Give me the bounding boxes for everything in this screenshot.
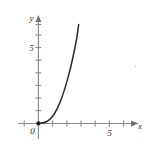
graph-figure: y x 5 5 0: [0, 0, 150, 152]
origin-point: [36, 121, 40, 125]
origin-label: 0: [30, 126, 35, 136]
scan-speck-artifact: [135, 66, 137, 68]
y-axis: [36, 15, 42, 139]
x-axis-label: x: [137, 121, 142, 131]
x-axis: [18, 121, 139, 127]
plot-area: y x 5 5 0: [0, 0, 150, 152]
y-tick-label-5: 5: [29, 43, 34, 53]
x-tick-label-5: 5: [107, 128, 112, 138]
function-curve: [38, 25, 78, 124]
y-axis-label: y: [29, 13, 34, 23]
y-axis-arrow: [36, 15, 42, 22]
